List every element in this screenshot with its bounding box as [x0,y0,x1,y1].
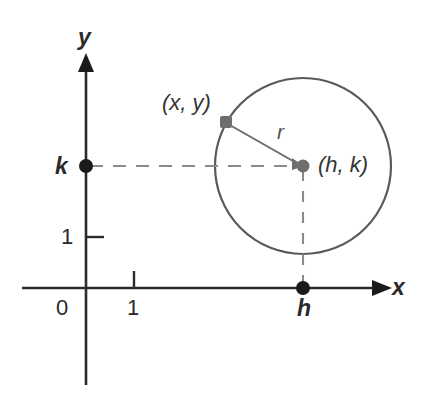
x-axis-label: x [392,276,405,299]
x-center-label-h: h [297,297,311,320]
y-axis-label: y [78,26,91,49]
x-axis-arrow-icon [372,280,392,296]
point-marker-center [297,160,310,173]
point-label-hk: (h, k) [318,154,368,176]
radius-label: r [277,121,284,142]
point-label-xy: (x, y) [162,92,211,114]
origin-label: 0 [56,297,68,319]
radius-line [228,124,300,165]
diagram-canvas [0,0,431,419]
circle-diagram: y x 0 1 1 k h (x, y) (h, k) r [0,0,431,419]
y-tick-label-1: 1 [61,226,73,248]
y-axis [78,53,94,385]
point-marker-h [296,281,310,295]
x-tick-label-1: 1 [127,297,139,319]
y-axis-arrow-icon [78,53,94,72]
x-axis [22,280,392,296]
point-marker-on-circle [220,116,232,128]
y-center-label-k: k [55,155,68,178]
point-marker-k [79,159,93,173]
